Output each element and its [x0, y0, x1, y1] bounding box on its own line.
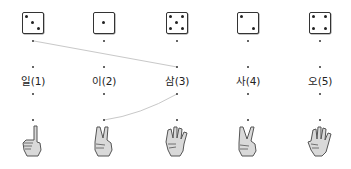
label-top-dot-1[interactable] [32, 66, 34, 68]
hand-four-fingers-icon [162, 124, 192, 158]
column-2: 이(2) [74, 0, 134, 169]
label-top-dot-4[interactable] [247, 66, 249, 68]
hand-dot-2[interactable] [103, 119, 105, 121]
label-top-dot-3[interactable] [176, 66, 178, 68]
label-bottom-dot-2[interactable] [103, 93, 105, 95]
hand-dot-3[interactable] [176, 119, 178, 121]
label-bottom-dot-5[interactable] [319, 93, 321, 95]
hand-dot-5[interactable] [319, 119, 321, 121]
die-dot-5[interactable] [319, 40, 321, 42]
die-one [93, 12, 115, 34]
die-four [309, 12, 331, 34]
column-5: 오(5) [290, 0, 350, 169]
hand-four-fingers-icon [305, 124, 335, 158]
hand-one-finger-icon [18, 124, 48, 158]
die-five [166, 12, 188, 34]
hand-two-fingers-icon [233, 124, 263, 158]
number-label-3: 삼(3) [147, 73, 207, 88]
column-1: 일(1) [3, 0, 63, 169]
number-label-1: 일(1) [3, 73, 63, 88]
label-top-dot-2[interactable] [103, 66, 105, 68]
die-dot-1[interactable] [32, 40, 34, 42]
number-label-4: 사(4) [218, 73, 278, 88]
die-dot-3[interactable] [176, 40, 178, 42]
label-top-dot-5[interactable] [319, 66, 321, 68]
hand-dot-4[interactable] [247, 119, 249, 121]
hand-dot-1[interactable] [32, 119, 34, 121]
column-4: 사(4) [218, 0, 278, 169]
label-bottom-dot-1[interactable] [32, 93, 34, 95]
hand-two-fingers-icon [89, 124, 119, 158]
label-bottom-dot-4[interactable] [247, 93, 249, 95]
die-dot-2[interactable] [103, 40, 105, 42]
die-three [22, 12, 44, 34]
die-dot-4[interactable] [247, 40, 249, 42]
number-label-5: 오(5) [290, 73, 350, 88]
label-bottom-dot-3[interactable] [176, 93, 178, 95]
number-label-2: 이(2) [74, 73, 134, 88]
column-3: 삼(3) [147, 0, 207, 169]
die-two [237, 12, 259, 34]
